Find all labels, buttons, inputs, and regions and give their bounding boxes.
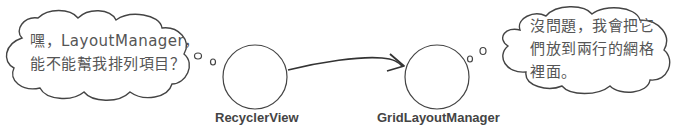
node-circle-gridlayoutmanager <box>405 45 469 109</box>
thought-line: 能不能幫我排列項目？ <box>30 53 200 76</box>
node-label-gridlayoutmanager: GridLayoutManager <box>377 110 500 125</box>
thought-line: 沒問題，我會把它 <box>530 15 654 38</box>
thought-text-left: 嘿，LayoutManager， 能不能幫我排列項目？ <box>30 30 200 76</box>
thought-dot <box>211 59 216 65</box>
thought-dot <box>480 48 486 55</box>
node-label-recyclerview: RecyclerView <box>215 110 299 125</box>
node-circle-recyclerview <box>223 45 287 109</box>
thought-text-right: 沒問題，我會把它 們放到兩行的網格 裡面。 <box>530 15 654 84</box>
thought-line: 們放到兩行的網格 <box>530 38 654 61</box>
thought-line: 裡面。 <box>530 61 654 84</box>
thought-line: 嘿，LayoutManager， <box>30 30 200 53</box>
arrow-line <box>288 58 402 70</box>
thought-dot <box>468 56 473 62</box>
arrow-head-icon <box>387 54 404 71</box>
